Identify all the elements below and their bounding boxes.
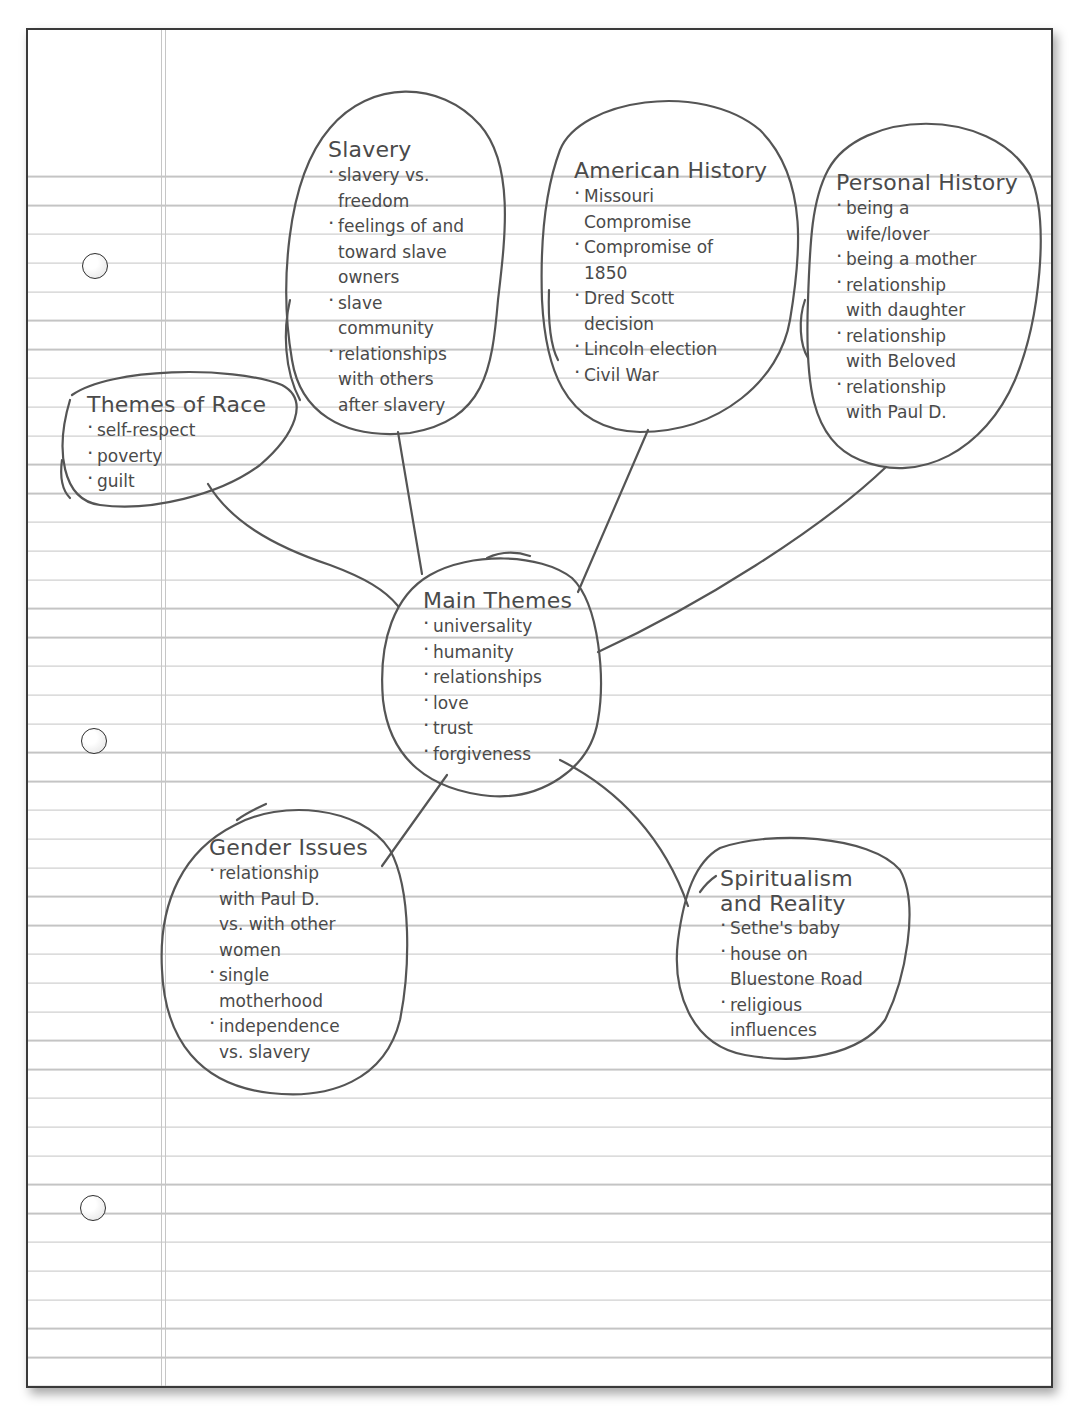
list-item: forgiveness <box>423 742 572 768</box>
node-items: slavery vs. freedom feelings of and towa… <box>328 163 464 418</box>
list-item: self-respect <box>87 418 266 444</box>
connector-slavery <box>398 432 422 574</box>
list-item: being a wife/lover <box>836 196 1018 247</box>
list-item: Dred Scott decision <box>574 286 767 337</box>
node-items: relationship with Paul D. vs. with other… <box>209 861 368 1065</box>
node-items: universality humanity relationships love… <box>423 614 572 767</box>
list-item: slavery vs. freedom <box>328 163 464 214</box>
list-item: humanity <box>423 640 572 666</box>
node-title: Spiritualism and Reality <box>720 866 863 916</box>
node-spiritualism-and-reality: Spiritualism and Reality Sethe's baby ho… <box>720 866 863 1044</box>
list-item: universality <box>423 614 572 640</box>
node-american-history: American History Missouri Compromise Com… <box>574 158 767 388</box>
node-title: Slavery <box>328 137 464 163</box>
connector-race <box>208 484 398 606</box>
node-items: self-respect poverty guilt <box>87 418 266 495</box>
list-item: Missouri Compromise <box>574 184 767 235</box>
list-item: love <box>423 691 572 717</box>
list-item: house on Bluestone Road <box>720 942 863 993</box>
list-item: Lincoln election <box>574 337 767 363</box>
node-items: Sethe's baby house on Bluestone Road rel… <box>720 916 863 1044</box>
node-title: Gender Issues <box>209 835 368 861</box>
list-item: Sethe's baby <box>720 916 863 942</box>
node-main-themes: Main Themes universality humanity relati… <box>423 588 572 767</box>
list-item: single motherhood <box>209 963 368 1014</box>
node-themes-of-race: Themes of Race self-respect poverty guil… <box>87 392 266 495</box>
list-item: relationship with Paul D. <box>836 375 1018 426</box>
connector-american <box>578 430 648 592</box>
list-item: relationship with Beloved <box>836 324 1018 375</box>
list-item: independence vs. slavery <box>209 1014 368 1065</box>
list-item: Compromise of 1850 <box>574 235 767 286</box>
node-items: Missouri Compromise Compromise of 1850 D… <box>574 184 767 388</box>
list-item: slave community <box>328 291 464 342</box>
node-personal-history: Personal History being a wife/lover bein… <box>836 170 1018 426</box>
node-title: Main Themes <box>423 588 572 614</box>
list-item: poverty <box>87 444 266 470</box>
node-title: Personal History <box>836 170 1018 196</box>
list-item: trust <box>423 716 572 742</box>
list-item: being a mother <box>836 247 1018 273</box>
node-gender-issues: Gender Issues relationship with Paul D. … <box>209 835 368 1065</box>
node-slavery: Slavery slavery vs. freedom feelings of … <box>328 137 464 418</box>
list-item: relationship with Paul D. vs. with other… <box>209 861 368 963</box>
connector-spiritualism <box>560 760 688 906</box>
list-item: relationships with others after slavery <box>328 342 464 419</box>
node-title: American History <box>574 158 767 184</box>
node-title: Themes of Race <box>87 392 266 418</box>
node-items: being a wife/lover being a mother relati… <box>836 196 1018 426</box>
list-item: feelings of and toward slave owners <box>328 214 464 291</box>
connector-personal <box>598 467 886 652</box>
list-item: Civil War <box>574 363 767 389</box>
list-item: relationships <box>423 665 572 691</box>
connector-gender <box>382 775 447 866</box>
list-item: religious influences <box>720 993 863 1044</box>
list-item: guilt <box>87 469 266 495</box>
list-item: relationship with daughter <box>836 273 1018 324</box>
